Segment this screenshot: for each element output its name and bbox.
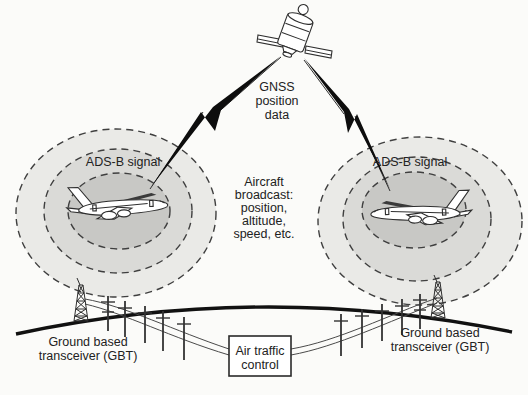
gnss-label-line1: GNSS [259,80,294,94]
gbt-label-left-line1: Ground based [48,335,127,349]
gbt-label-right-line2: transceiver (GBT) [391,340,490,354]
utility-pole-icon [334,314,348,356]
utility-pole-icon [101,296,115,331]
broadcast-label-line5: speed, etc. [233,227,294,241]
adsb-signal-label-left: ADS-B signal [86,155,160,169]
broadcast-label-line1: Aircraft [244,175,284,189]
satellite-icon [257,0,332,61]
utility-pole-icon [375,304,389,341]
utility-pole-icon [355,309,369,348]
atc-box: Air traffic control [229,336,291,376]
broadcast-label-line3: position, [241,201,288,215]
broadcast-label-line2: broadcast: [235,188,293,202]
broadcast-label-line4: altitude, [242,214,286,228]
adsb-diagram: Air traffic control GNSS position data A… [0,0,528,395]
utility-pole-icon [177,317,191,360]
gbt-label-left-line2: transceiver (GBT) [39,349,138,363]
gnss-link-line [304,60,344,114]
gnss-label-line3: data [265,108,289,122]
gnss-label-line2: position [255,94,298,108]
atc-label-line1: Air traffic [235,344,284,358]
gbt-label-right-line1: Ground based [400,326,479,340]
adsb-signal-label-right: ADS-B signal [373,155,447,169]
utility-pole-icon [156,311,170,351]
atc-label-line2: control [241,358,279,372]
diagram-canvas: Air traffic control GNSS position data A… [0,0,528,395]
